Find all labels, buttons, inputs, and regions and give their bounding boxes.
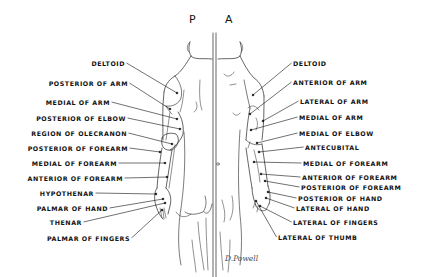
- leader-dot: [253, 161, 255, 163]
- label-palmar-of-hand: PALMAR OF HAND: [37, 205, 108, 212]
- label-palmar-of-fingers: PALMAR OF FINGERS: [47, 235, 130, 242]
- leader-line: [259, 147, 304, 152]
- leader-dot: [262, 120, 264, 122]
- leader-dot: [155, 193, 157, 195]
- label-lateral-of-fingers: LATERAL OF FINGERS: [293, 219, 378, 226]
- leader-dot: [159, 151, 161, 153]
- leader-dot: [171, 143, 173, 145]
- leader-dot: [169, 108, 171, 110]
- label-region-of-olecranon: REGION OF OLECRANON: [31, 130, 127, 137]
- leader-line: [253, 63, 292, 95]
- leader-line: [96, 193, 157, 194]
- label-anterior-of-arm: ANTERIOR OF ARM: [293, 79, 367, 86]
- leader-line: [257, 133, 298, 143]
- label-posterior-deltoid: DELTOID: [91, 60, 125, 67]
- label-medial-of-arm-anterior: MEDIAL OF ARM: [299, 114, 363, 121]
- label-posterior-of-arm: POSTERIOR OF ARM: [49, 80, 128, 87]
- label-lateral-of-thumb: LATERAL OF THUMB: [278, 234, 357, 241]
- leader-line: [251, 117, 298, 130]
- label-anterior-of-forearm-posterior: ANTERIOR OF FOREARM: [28, 175, 123, 182]
- label-medial-of-elbow: MEDIAL OF ELBOW: [299, 130, 374, 137]
- label-medial-of-forearm-anterior: MEDIAL OF FOREARM: [303, 160, 388, 167]
- leader-line: [256, 201, 277, 237]
- label-antecubital: ANTECUBITAL: [305, 144, 359, 151]
- leader-dot: [264, 180, 266, 182]
- leader-line: [260, 206, 292, 222]
- label-thenar: THENAR: [50, 219, 82, 226]
- leader-dot: [162, 198, 164, 200]
- label-posterior-of-elbow: POSTERIOR OF ELBOW: [36, 115, 126, 122]
- leader-line: [132, 210, 163, 238]
- leader-line: [125, 177, 168, 178]
- label-posterior-of-forearm-anterior: POSTERIOR OF FOREARM: [301, 184, 401, 191]
- leader-line: [266, 198, 295, 208]
- leader-dot: [249, 113, 251, 115]
- leader-dot: [255, 200, 257, 202]
- leader-line: [254, 162, 302, 163]
- label-posterior-of-forearm-posterior: POSTERIOR OF FOREARM: [28, 145, 128, 152]
- leader-line: [268, 192, 297, 198]
- leader-dot: [179, 128, 181, 130]
- label-hypothenar: HYPOTHENAR: [40, 190, 94, 197]
- leader-dot: [166, 176, 168, 178]
- label-posterior-of-hand: POSTERIOR OF HAND: [298, 195, 383, 202]
- leader-line: [128, 118, 181, 129]
- leader-dot: [258, 151, 260, 153]
- label-anterior-of-forearm-anterior: ANTERIOR OF FOREARM: [302, 174, 397, 181]
- leader-dot: [252, 94, 254, 96]
- label-lateral-of-arm: LATERAL OF ARM: [300, 98, 368, 105]
- label-medial-of-arm-posterior: MEDIAL OF ARM: [46, 99, 110, 106]
- leader-dot: [265, 197, 267, 199]
- leader-dot: [267, 191, 269, 193]
- leader-line: [130, 148, 161, 152]
- label-anterior-deltoid: DELTOID: [293, 60, 327, 67]
- posterior-view-label: P: [189, 13, 196, 26]
- label-lateral-of-hand: LATERAL OF HAND: [296, 205, 370, 212]
- leader-line: [265, 181, 300, 187]
- leader-dot: [250, 129, 252, 131]
- leader-dot: [256, 142, 258, 144]
- leader-dot: [260, 173, 262, 175]
- leader-dot: [161, 209, 163, 211]
- artist-signature: D.Powell: [225, 254, 258, 263]
- anatomy-diagram: P A DELTOID POSTERIOR OF ARM MEDIAL OF A…: [0, 0, 426, 277]
- leader-line: [250, 82, 292, 114]
- leader-dot: [164, 202, 166, 204]
- leader-line: [127, 63, 178, 93]
- anterior-view-label: A: [225, 13, 233, 26]
- label-medial-of-forearm-posterior: MEDIAL OF FOREARM: [32, 160, 117, 167]
- leader-dot: [176, 118, 178, 120]
- leader-dot: [164, 162, 166, 164]
- leader-dot: [176, 92, 178, 94]
